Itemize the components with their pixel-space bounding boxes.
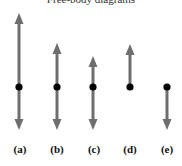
- diagram-label-a: (a): [14, 143, 27, 155]
- point-mass-dot: [126, 83, 133, 90]
- point-mass-dot: [89, 83, 96, 90]
- arrow-down-icon: [15, 119, 24, 130]
- arrow-down-icon: [89, 119, 98, 130]
- point-mass-dot: [53, 83, 60, 90]
- diagram-label-d: (d): [123, 143, 136, 155]
- point-mass-dot: [15, 83, 22, 90]
- arrow-up-icon: [15, 13, 24, 24]
- free-body-diagrams: [0, 0, 182, 166]
- diagram-c: [89, 56, 98, 130]
- diagram-a: [15, 13, 24, 130]
- diagram-e: [163, 83, 172, 130]
- diagram-d: [126, 44, 135, 91]
- diagram-label-e: (e): [161, 143, 173, 155]
- arrow-down-icon: [53, 119, 62, 130]
- diagram-label-c: (c): [88, 143, 100, 155]
- point-mass-dot: [163, 83, 170, 90]
- arrow-up-icon: [89, 56, 98, 67]
- arrow-down-icon: [163, 119, 172, 130]
- diagram-b: [53, 43, 62, 130]
- diagram-label-b: (b): [50, 143, 63, 155]
- arrow-up-icon: [126, 44, 135, 55]
- arrow-up-icon: [53, 43, 62, 54]
